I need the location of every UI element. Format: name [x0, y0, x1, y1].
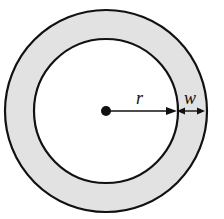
annulus-diagram: r w	[0, 0, 224, 219]
width-label: w	[184, 88, 196, 108]
radius-label: r	[136, 88, 144, 108]
